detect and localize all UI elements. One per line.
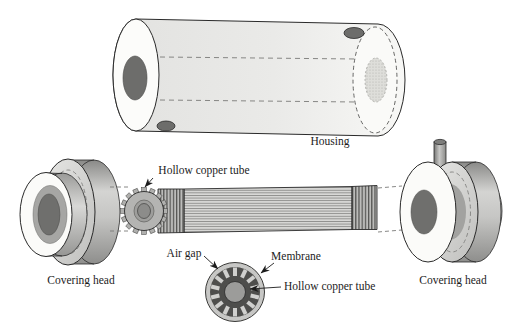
right-head-hole	[411, 190, 437, 234]
cross-section-copper-tube	[225, 282, 246, 303]
tube-right-guide-dashes	[378, 186, 402, 232]
covering-head-right: Covering head	[400, 139, 502, 287]
tube-striped-body	[184, 187, 352, 233]
housing-illustration: Housing	[113, 19, 405, 148]
covering-head-left: Covering head	[20, 159, 120, 287]
hollow-copper-tube-top-label: Hollow copper tube	[158, 164, 249, 177]
tube-top-arrow	[145, 178, 153, 187]
left-head-hole	[38, 194, 60, 235]
housing-port-bottom	[157, 121, 175, 131]
tube-right-ribbed-band	[352, 186, 377, 230]
membrane-tube: Hollow copper tube	[110, 164, 402, 235]
membrane-arrow	[261, 263, 274, 273]
air-gap-arrow	[204, 256, 218, 269]
membrane-label: Membrane	[271, 250, 321, 262]
housing-left-hole	[123, 56, 147, 100]
housing-port-top	[344, 28, 364, 39]
hollow-copper-tube-bottom-label: Hollow copper tube	[284, 280, 375, 293]
cross-section: Air gap Membrane Hollow copper tube	[167, 247, 376, 322]
tube-end-gear	[121, 188, 168, 235]
covering-head-right-label: Covering head	[419, 274, 487, 287]
covering-head-left-label: Covering head	[47, 274, 115, 287]
figure-canvas: Housing Covering head	[0, 0, 512, 335]
housing-right-inner-hole	[365, 58, 387, 102]
air-gap-label: Air gap	[167, 247, 202, 260]
membrane-module-diagram: Housing Covering head	[0, 0, 512, 335]
housing-label: Housing	[311, 135, 350, 148]
